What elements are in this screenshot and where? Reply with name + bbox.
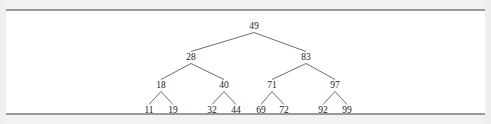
tree-node-label: 19 — [168, 105, 178, 115]
tree-node-label: 40 — [219, 80, 229, 90]
tree-edge — [161, 92, 173, 105]
tree-edge — [306, 64, 335, 80]
tree-edge — [149, 92, 161, 105]
tree-node-label: 69 — [256, 105, 266, 115]
tree-edge — [261, 92, 272, 105]
tree-edge — [212, 92, 224, 105]
tree-edge — [191, 33, 254, 52]
page-gutter-right — [485, 0, 491, 124]
tree-edge — [335, 92, 347, 105]
page-root: 492883184071971119324469729299 — [0, 0, 491, 124]
tree-node-label: 18 — [156, 80, 166, 90]
tree-node-label: 71 — [267, 80, 277, 90]
tree-nodes-group: 492883184071971119324469729299 — [144, 21, 352, 115]
tree-node-label: 72 — [279, 105, 289, 115]
tree-node-label: 11 — [144, 105, 153, 115]
diagram-canvas: 492883184071971119324469729299 — [6, 9, 485, 115]
tree-edge — [272, 92, 284, 105]
tree-node-label: 28 — [186, 52, 196, 62]
tree-node-label: 99 — [342, 105, 352, 115]
tree-edge — [323, 92, 335, 105]
tree-edge — [224, 92, 236, 105]
tree-node-label: 92 — [318, 105, 328, 115]
tree-node-label: 49 — [249, 21, 259, 31]
tree-node-label: 83 — [301, 52, 311, 62]
tree-node-label: 32 — [207, 105, 217, 115]
tree-node-label: 97 — [330, 80, 340, 90]
tree-edges-group — [149, 33, 347, 105]
binary-search-tree-figure: 492883184071971119324469729299 — [6, 11, 485, 117]
tree-edge — [161, 64, 191, 80]
tree-edge — [254, 33, 306, 52]
tree-edge — [191, 64, 224, 80]
tree-edge — [272, 64, 306, 80]
tree-node-label: 44 — [231, 105, 241, 115]
